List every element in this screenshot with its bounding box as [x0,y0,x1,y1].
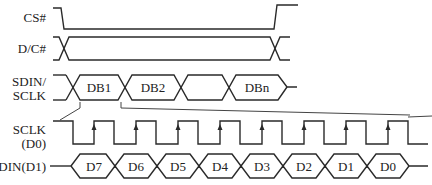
arrow-up-icon [92,124,97,130]
arrow-up-icon [176,124,181,130]
bit-d4: D4 [212,159,228,174]
bit-d1: D1 [338,159,354,174]
rising-edge-arrows [92,124,391,130]
timing-diagram: CS# D/C# SDIN/ SCLK SCLK (D0) SDIN(D1) D… [0,0,432,185]
bit-d7: D7 [86,159,102,174]
bus-segment-dbn: DBn [245,80,270,95]
arrow-up-icon [218,124,223,130]
bus-segment-db1: DB1 [87,80,112,95]
label-bus-line2: SCLK [13,88,47,103]
label-sclk-line2: (D0) [21,136,46,151]
arrow-up-icon [260,124,265,130]
sdin-waveform [50,154,428,178]
bit-d6: D6 [128,159,144,174]
sclk-high-tail [408,116,432,117]
label-cs: CS# [24,10,47,25]
label-sdin: SDIN(D1) [0,159,46,174]
bit-d2: D2 [296,159,312,174]
arrow-up-icon [386,124,391,130]
label-sclk-line1: SCLK [13,122,47,137]
dc-waveform [53,37,290,60]
cs-waveform [53,5,298,29]
arrow-up-icon [302,124,307,130]
bit-d5: D5 [170,159,186,174]
label-bus-line1: SDIN/ [12,74,46,89]
label-dc: D/C# [18,41,47,56]
arrow-up-icon [134,124,139,130]
sclk-waveform [53,121,428,144]
arrow-up-icon [344,124,349,130]
bus-segment-db2: DB2 [141,80,166,95]
bit-d0: D0 [380,159,396,174]
expansion-lines [60,102,410,120]
bit-d3: D3 [254,159,270,174]
